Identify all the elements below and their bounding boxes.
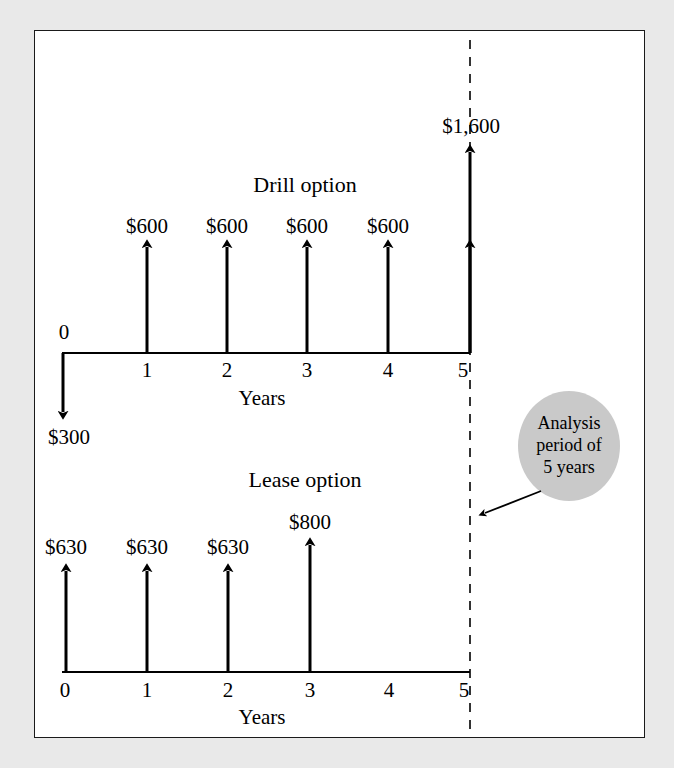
drill-axis-label: Years (239, 388, 286, 409)
drill-amount-label-y5-1600: $1,600 (442, 116, 500, 137)
lease-tick-label-2: 2 (223, 680, 234, 701)
drill-tick-label-4: 4 (383, 360, 394, 381)
callout-line-2: period of (514, 435, 624, 457)
cash-flow-canvas (0, 0, 674, 768)
analysis-period-leader-arrow (485, 491, 541, 513)
drill-amount-label-y2: $600 (206, 216, 248, 237)
callout-line-1: Analysis (514, 413, 624, 435)
lease-tick-label-4: 4 (384, 680, 395, 701)
drill-tick-label-0: 0 (59, 322, 70, 343)
drill-tick-label-1: 1 (142, 360, 153, 381)
lease-tick-label-0: 0 (60, 680, 71, 701)
lease-tick-label-3: 3 (305, 680, 316, 701)
lease-option-title: Lease option (248, 469, 361, 491)
drill-tick-label-3: 3 (302, 360, 313, 381)
lease-amount-label-y3: $800 (289, 512, 331, 533)
drill-amount-label-y0-outflow: $300 (48, 427, 90, 448)
callout-line-3: 5 years (514, 457, 624, 479)
lease-tick-label-5: 5 (459, 680, 470, 701)
lease-tick-label-1: 1 (142, 680, 153, 701)
lease-amount-label-y0: $630 (45, 537, 87, 558)
lease-axis-label: Years (239, 707, 286, 728)
lease-amount-label-y2: $630 (207, 537, 249, 558)
drill-amount-label-y3: $600 (286, 216, 328, 237)
lease-amount-label-y1: $630 (126, 537, 168, 558)
drill-option-title: Drill option (253, 174, 356, 196)
analysis-period-callout-text: Analysis period of 5 years (514, 413, 624, 479)
figure-page: Drill option $600 $600 $600 $600 $1,600 … (0, 0, 674, 768)
drill-amount-label-y4: $600 (367, 216, 409, 237)
drill-tick-label-5: 5 (458, 360, 469, 381)
drill-tick-label-2: 2 (222, 360, 233, 381)
drill-amount-label-y1: $600 (126, 216, 168, 237)
